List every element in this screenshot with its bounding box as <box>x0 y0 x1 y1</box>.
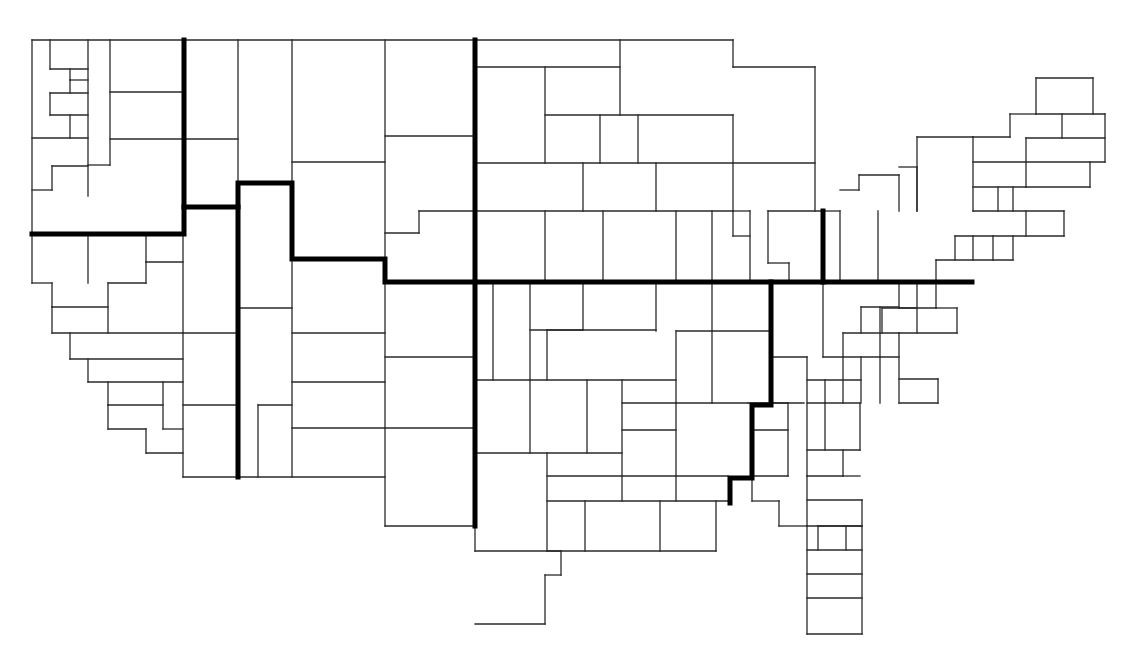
region-borders <box>32 40 1105 634</box>
cartogram-map <box>0 0 1141 656</box>
southeast-boundary <box>730 282 771 503</box>
